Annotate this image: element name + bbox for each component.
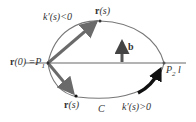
label-p2-l: P2 l	[166, 65, 181, 78]
label-curve-c: C	[98, 104, 105, 114]
label-r0-p1: r(0) =P1	[10, 57, 45, 70]
vector-upper	[48, 22, 96, 63]
point-r-bottom	[74, 94, 77, 97]
curve-diagram: r(0) =P1 k′(s)<0 r(s) b P2 l r(s) C k′(s…	[0, 0, 196, 122]
point-p1	[47, 62, 50, 65]
label-r-top: r(s)	[95, 6, 110, 16]
label-r-bottom: r(s)	[64, 100, 79, 110]
label-k-positive: k′(s)>0	[122, 102, 151, 112]
label-b: b	[128, 42, 134, 52]
tangent-arrow	[138, 70, 160, 93]
point-r-top	[99, 20, 102, 23]
label-k-negative: k′(s)<0	[43, 12, 72, 22]
